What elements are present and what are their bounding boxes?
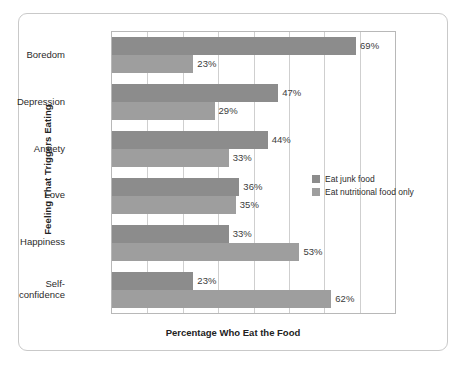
legend-item[interactable]: Eat junk food bbox=[312, 174, 414, 184]
chart-frame: Feeling That Triggers Eating Percentage … bbox=[18, 13, 448, 351]
category-label: Love bbox=[0, 189, 65, 200]
legend-label-nutritional-food: Eat nutritional food only bbox=[325, 187, 414, 197]
legend-item[interactable]: Eat nutritional food only bbox=[312, 187, 414, 197]
category-label-line: confidence bbox=[0, 289, 65, 300]
bar-value-label: 33% bbox=[233, 149, 252, 167]
category-label-line: Anxiety bbox=[0, 143, 65, 154]
bar[interactable] bbox=[112, 225, 229, 243]
category-label: Anxiety bbox=[0, 143, 65, 154]
category-label-line: Love bbox=[0, 189, 65, 200]
bar-value-label: 53% bbox=[303, 243, 322, 261]
bar-value-label: 29% bbox=[219, 102, 238, 120]
legend-swatch-junk-food bbox=[312, 175, 320, 183]
category-label-line: Self- bbox=[0, 278, 65, 289]
bar-value-label: 35% bbox=[240, 196, 259, 214]
category-label-line: Happiness bbox=[0, 236, 65, 247]
bar[interactable] bbox=[112, 149, 229, 167]
plot-area: 69%23%47%29%44%33%36%35%33%53%23%62% bbox=[111, 31, 396, 314]
bar[interactable] bbox=[112, 55, 193, 73]
bar-value-label: 23% bbox=[197, 272, 216, 290]
category-label: Depression bbox=[0, 96, 65, 107]
bar[interactable] bbox=[112, 243, 299, 261]
bar-group: 44%33% bbox=[112, 126, 395, 173]
bar[interactable] bbox=[112, 178, 239, 196]
bar-value-label: 69% bbox=[360, 37, 379, 55]
legend-label-junk-food: Eat junk food bbox=[325, 174, 375, 184]
legend-swatch-nutritional-food bbox=[312, 188, 320, 196]
bar-groups: 69%23%47%29%44%33%36%35%33%53%23%62% bbox=[112, 32, 395, 313]
bar-group: 47%29% bbox=[112, 79, 395, 126]
bar[interactable] bbox=[112, 84, 278, 102]
bar-value-label: 23% bbox=[197, 55, 216, 73]
bar-value-label: 47% bbox=[282, 84, 301, 102]
bar[interactable] bbox=[112, 37, 356, 55]
bar[interactable] bbox=[112, 272, 193, 290]
category-label-line: Boredom bbox=[0, 49, 65, 60]
category-label: Boredom bbox=[0, 49, 65, 60]
bar-value-label: 36% bbox=[243, 178, 262, 196]
bar-value-label: 62% bbox=[335, 290, 354, 308]
category-label: Happiness bbox=[0, 236, 65, 247]
category-label-line: Depression bbox=[0, 96, 65, 107]
bar-group: 69%23% bbox=[112, 32, 395, 79]
bar-group: 33%53% bbox=[112, 219, 395, 266]
bar-value-label: 33% bbox=[233, 225, 252, 243]
bar[interactable] bbox=[112, 290, 331, 308]
chart-legend: Eat junk food Eat nutritional food only bbox=[312, 174, 414, 200]
bar-value-label: 44% bbox=[272, 131, 291, 149]
bar[interactable] bbox=[112, 102, 215, 120]
x-axis-title: Percentage Who Eat the Food bbox=[19, 327, 447, 338]
bar[interactable] bbox=[112, 196, 236, 214]
category-label: Self-confidence bbox=[0, 278, 65, 300]
bar-group: 23%62% bbox=[112, 266, 395, 313]
bar[interactable] bbox=[112, 131, 268, 149]
